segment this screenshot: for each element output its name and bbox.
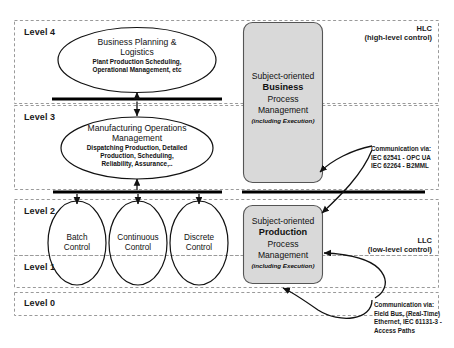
bpm-line-4: Management bbox=[233, 105, 333, 116]
llc-abbrev: LLC bbox=[322, 236, 432, 245]
level-label-level1: Level 1 bbox=[24, 262, 55, 272]
level-label-level0: Level 0 bbox=[24, 298, 55, 308]
llc-full: (low-level control) bbox=[322, 245, 432, 254]
level-label-level2: Level 2 bbox=[24, 206, 55, 216]
discrete-control-line-1: Discrete bbox=[159, 233, 239, 243]
business-process-management-text: Subject-oriented Business Process Manage… bbox=[233, 71, 333, 126]
ppm-line-4: Management bbox=[233, 250, 333, 261]
ppm-line-2: Production bbox=[233, 227, 333, 239]
ellipse-business-planning bbox=[58, 28, 216, 93]
diagram-vector-layer bbox=[0, 0, 454, 348]
comm-ll-line1: Communication via: bbox=[374, 301, 442, 310]
comm-ll-line4: Access Paths bbox=[374, 327, 442, 336]
level-label-level3: Level 3 bbox=[24, 112, 55, 122]
ppm-note: (including Execution) bbox=[233, 262, 333, 270]
discrete-control-line-2: Control bbox=[159, 243, 239, 253]
comm-ll-line3: Ethernet, IEC 61131-3 - bbox=[374, 318, 442, 327]
comm-hl-line2: IEC 62541 - OPC UA bbox=[371, 154, 431, 163]
ppm-line-3: Process bbox=[233, 239, 333, 250]
discrete-control-text: Discrete Control bbox=[159, 233, 239, 252]
hlc-abbrev: HLC bbox=[322, 24, 432, 33]
bpm-line-2: Business bbox=[233, 82, 333, 94]
llc-zone-label: LLC (low-level control) bbox=[322, 236, 432, 255]
ppm-line-1: Subject-oriented bbox=[233, 216, 333, 227]
production-process-management-text: Subject-oriented Production Process Mana… bbox=[233, 216, 333, 271]
low-level-communication-note: Communication via: Field Bus, (Real-Time… bbox=[374, 301, 442, 335]
bpm-line-1: Subject-oriented bbox=[233, 71, 333, 82]
bpm-line-3: Process bbox=[233, 94, 333, 105]
diagram-canvas: Level 4 Level 3 Level 2 Level 1 Level 0 … bbox=[0, 0, 454, 348]
high-level-communication-note: Communication via: IEC 62541 - OPC UA IE… bbox=[371, 145, 431, 171]
comm-hl-line3: IEC 62264 - B2MML bbox=[371, 162, 431, 171]
vertical-connectors bbox=[77, 93, 199, 205]
comm-hl-line1: Communication via: bbox=[371, 145, 431, 154]
hlc-full: (high-level control) bbox=[322, 33, 432, 42]
comm-ll-line2: Field Bus, (Real-Time) bbox=[374, 310, 442, 319]
level-label-level4: Level 4 bbox=[24, 27, 55, 37]
hlc-zone-label: HLC (high-level control) bbox=[322, 24, 432, 43]
ellipse-manufacturing-operations bbox=[61, 117, 213, 179]
bpm-note: (including Execution) bbox=[233, 117, 333, 125]
